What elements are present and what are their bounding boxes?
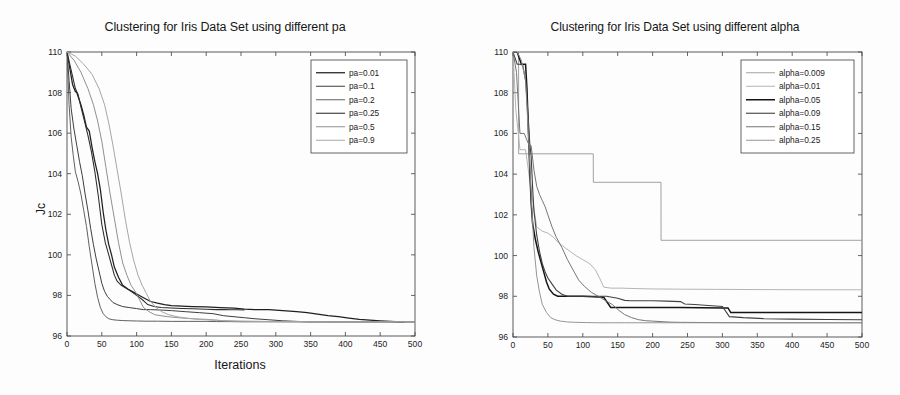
legend-label-1: pa=0.1 bbox=[349, 81, 375, 91]
x-tick-label: 400 bbox=[785, 340, 800, 350]
x-tick-label: 500 bbox=[408, 339, 423, 349]
x-tick-label: 0 bbox=[65, 339, 70, 349]
y-tick-label: 102 bbox=[48, 209, 63, 219]
y-tick-label: 110 bbox=[494, 47, 508, 57]
x-tick-label: 100 bbox=[576, 340, 591, 350]
legend-label-4: pa=0.5 bbox=[349, 122, 375, 132]
series-line-3 bbox=[67, 52, 244, 310]
legend-label-1: alpha=0.01 bbox=[779, 81, 821, 91]
y-tick-label: 98 bbox=[498, 291, 508, 301]
y-tick-label: 106 bbox=[494, 128, 509, 138]
y-tick-label: 106 bbox=[48, 128, 63, 138]
y-tick-label: 96 bbox=[498, 332, 508, 342]
x-tick-label: 150 bbox=[611, 340, 626, 350]
y-tick-label: 108 bbox=[48, 88, 63, 98]
y-tick-label: 104 bbox=[494, 169, 509, 179]
x-tick-label: 350 bbox=[303, 339, 318, 349]
x-tick-label: 50 bbox=[543, 340, 553, 350]
y-tick-label: 100 bbox=[494, 251, 509, 261]
x-tick-label: 0 bbox=[511, 340, 516, 350]
x-tick-label: 50 bbox=[97, 339, 107, 349]
legend-label-4: alpha=0.15 bbox=[779, 122, 821, 132]
y-tick-label: 100 bbox=[48, 250, 63, 260]
y-tick-label: 98 bbox=[52, 290, 62, 300]
y-tick-label: 108 bbox=[494, 88, 509, 98]
x-tick-label: 300 bbox=[269, 339, 284, 349]
x-tick-label: 450 bbox=[820, 340, 835, 350]
legend-label-5: alpha=0.25 bbox=[779, 135, 821, 145]
plot-area-right: 0501001502002503003504004505009698100102… bbox=[450, 0, 900, 395]
legend-label-2: alpha=0.05 bbox=[779, 95, 821, 105]
plot-area-left: 0501001502002503003504004505009698100102… bbox=[0, 0, 450, 395]
chart-svg-left: 0501001502002503003504004505009698100102… bbox=[0, 0, 450, 395]
y-tick-label: 96 bbox=[52, 331, 62, 341]
x-tick-label: 500 bbox=[855, 340, 870, 350]
y-tick-label: 110 bbox=[48, 47, 62, 57]
x-tick-label: 200 bbox=[645, 340, 660, 350]
legend-label-3: pa=0.25 bbox=[349, 108, 380, 118]
x-tick-label: 100 bbox=[129, 339, 144, 349]
chart-panel-right: Clustering for Iris Data Set using diffe… bbox=[450, 0, 900, 395]
x-tick-label: 450 bbox=[373, 339, 388, 349]
x-tick-label: 250 bbox=[680, 340, 695, 350]
x-tick-label: 350 bbox=[750, 340, 765, 350]
y-tick-label: 104 bbox=[48, 169, 63, 179]
chart-svg-right: 0501001502002503003504004505009698100102… bbox=[450, 0, 900, 395]
x-tick-label: 250 bbox=[234, 339, 249, 349]
chart-panel-left: Clustering for Iris Data Set using diffe… bbox=[0, 0, 450, 395]
x-tick-label: 150 bbox=[164, 339, 179, 349]
x-tick-label: 400 bbox=[338, 339, 353, 349]
x-tick-label: 300 bbox=[715, 340, 730, 350]
legend-label-2: pa=0.2 bbox=[349, 95, 375, 105]
figure-sheet: Clustering for Iris Data Set using diffe… bbox=[0, 0, 900, 395]
legend-label-3: alpha=0.09 bbox=[779, 108, 821, 118]
x-tick-label: 200 bbox=[199, 339, 214, 349]
legend-label-0: alpha=0.009 bbox=[779, 68, 825, 78]
legend-label-0: pa=0.01 bbox=[349, 68, 380, 78]
legend-label-5: pa=0.9 bbox=[349, 135, 375, 145]
y-tick-label: 102 bbox=[494, 210, 509, 220]
